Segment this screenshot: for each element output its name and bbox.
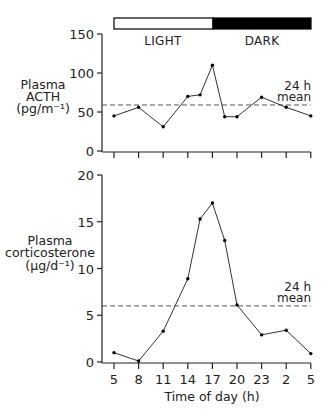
data-point xyxy=(285,329,288,332)
data-point xyxy=(112,351,115,354)
data-point xyxy=(260,95,263,98)
cort-mean-label-line2: mean xyxy=(277,291,311,305)
data-line xyxy=(114,203,311,361)
x-tick-label: 14 xyxy=(180,372,197,387)
acth-ylabel-line3: (pg/m⁻¹) xyxy=(16,101,70,116)
y-tick-label: 10 xyxy=(77,262,94,277)
acth-mean-label-line2: mean xyxy=(277,90,311,104)
x-axis-title: Time of day (h) xyxy=(163,389,259,404)
data-point xyxy=(162,329,165,332)
x-tick-label: 5 xyxy=(110,372,118,387)
data-point xyxy=(211,201,214,204)
x-tick-label: 17 xyxy=(204,372,221,387)
y-tick-label: 5 xyxy=(86,308,94,323)
figure: LIGHT DARK Plasma ACTH (pg/m⁻¹) 05010015… xyxy=(0,0,331,420)
cort-axes: 05101520 xyxy=(77,168,310,370)
y-tick-label: 20 xyxy=(77,168,94,183)
data-point xyxy=(285,106,288,109)
dark-period-bar xyxy=(213,18,311,29)
data-point xyxy=(112,114,115,117)
data-point xyxy=(198,93,201,96)
dark-label: DARK xyxy=(245,34,280,48)
y-tick-label: 15 xyxy=(77,215,94,230)
data-point xyxy=(235,303,238,306)
light-label: LIGHT xyxy=(144,34,182,48)
y-tick-label: 100 xyxy=(69,66,94,81)
data-point xyxy=(137,106,140,109)
light-dark-bar: LIGHT DARK xyxy=(114,18,311,48)
data-point xyxy=(223,115,226,118)
cort-ylabel-line3: (µg/d⁻¹) xyxy=(25,258,74,273)
data-point xyxy=(162,125,165,128)
acth-y-axis-title: Plasma ACTH (pg/m⁻¹) xyxy=(16,77,70,116)
data-point xyxy=(186,277,189,280)
cort-series xyxy=(112,201,312,362)
x-tick-label: 8 xyxy=(134,372,142,387)
x-tick-label: 5 xyxy=(307,372,315,387)
y-tick-label: 0 xyxy=(86,144,94,159)
data-point xyxy=(186,95,189,98)
y-tick-label: 0 xyxy=(86,355,94,370)
data-point xyxy=(198,217,201,220)
data-point xyxy=(223,239,226,242)
data-point xyxy=(260,333,263,336)
x-tick-label: 23 xyxy=(253,372,270,387)
corticosterone-chart: Plasma corticosterone (µg/d⁻¹) 05101520 … xyxy=(5,168,315,404)
x-tick-labels: 58111417202325 xyxy=(110,372,315,387)
data-point xyxy=(309,352,312,355)
x-tick-label: 2 xyxy=(282,372,290,387)
light-period-bar xyxy=(114,18,213,29)
y-tick-label: 50 xyxy=(77,105,94,120)
data-point xyxy=(235,115,238,118)
x-tick-label: 11 xyxy=(155,372,172,387)
x-tick-label: 20 xyxy=(229,372,246,387)
data-point xyxy=(137,359,140,362)
data-point xyxy=(211,63,214,66)
y-tick-label: 150 xyxy=(69,27,94,42)
data-point xyxy=(309,114,312,117)
